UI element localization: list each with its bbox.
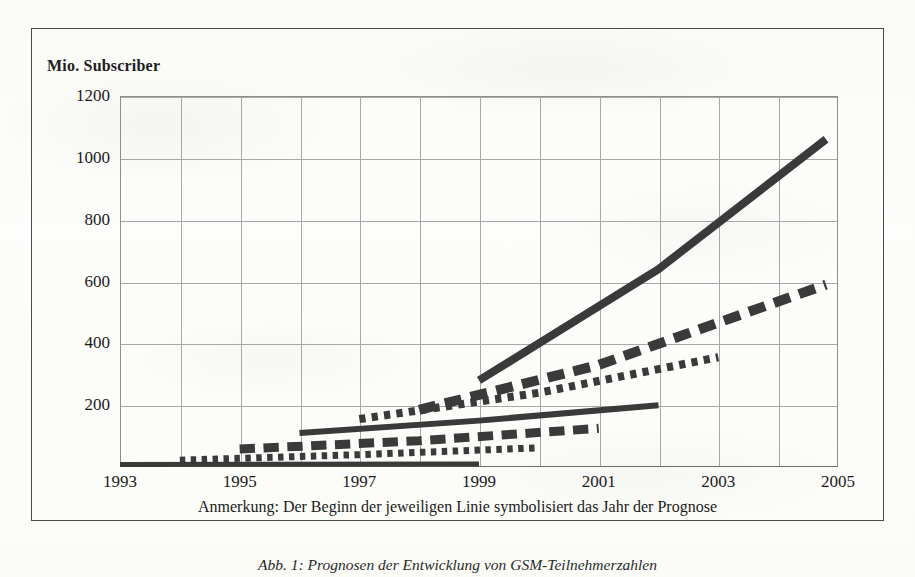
gridline-horizontal [121,221,837,222]
y-tick-label: 1200 [48,86,110,106]
x-tick-label: 2005 [802,472,874,492]
y-tick-label: 200 [48,395,110,415]
gridline-vertical [660,97,661,466]
gridline-vertical [360,97,361,466]
x-tick-label: 1995 [204,472,276,492]
figure-caption: Abb. 1: Prognosen der Entwicklung von GS… [31,556,884,574]
x-tick-label: 1993 [84,472,156,492]
x-tick-label: 1997 [323,472,395,492]
x-tick-label: 2001 [563,472,635,492]
y-axis-tick-labels: 12001000800600400200 [46,96,110,467]
x-tick-label: 1999 [443,472,515,492]
x-axis-tick-labels: 1993199519971999200120032005 [120,472,838,498]
gridline-vertical [600,97,601,466]
y-tick-label: 400 [48,333,110,353]
x-tick-label: 2003 [682,472,754,492]
chart-note: Anmerkung: Der Beginn der jeweiligen Lin… [31,498,884,516]
gridline-vertical [540,97,541,466]
y-axis-title: Mio. Subscriber [47,57,160,75]
gridline-vertical [779,97,780,466]
gridline-vertical [181,97,182,466]
gridline-vertical [420,97,421,466]
gridline-horizontal [121,406,837,407]
gridline-horizontal [121,97,837,98]
gridline-horizontal [121,283,837,284]
gridline-vertical [301,97,302,466]
y-tick-label: 800 [48,210,110,230]
y-tick-label: 1000 [48,148,110,168]
y-tick-label: 600 [48,272,110,292]
gridline-horizontal [121,344,837,345]
gridline-horizontal [121,159,837,160]
gridline-vertical [480,97,481,466]
gridline-vertical [241,97,242,466]
gridline-vertical [719,97,720,466]
plot-area [120,96,838,467]
